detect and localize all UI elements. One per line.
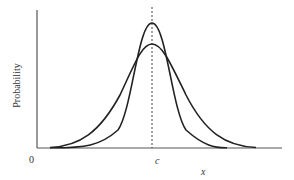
origin-label: 0 xyxy=(29,154,34,165)
chart-canvas xyxy=(0,0,294,180)
y-axis-label: Probability xyxy=(11,56,22,116)
wide-curve xyxy=(50,44,256,148)
narrow-curve xyxy=(50,23,227,148)
x-axis-label: x xyxy=(201,166,205,177)
c-tick-label: c xyxy=(155,155,159,166)
